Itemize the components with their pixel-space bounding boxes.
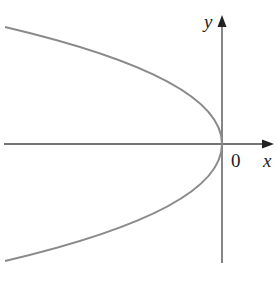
y-axis-label: y — [202, 11, 213, 32]
origin-label: 0 — [231, 150, 241, 171]
x-axis-label: x — [262, 150, 272, 171]
x-axis-arrow-icon — [262, 140, 274, 149]
y-axis-arrow-icon — [218, 15, 227, 27]
parabola-figure: y x 0 — [0, 0, 279, 292]
